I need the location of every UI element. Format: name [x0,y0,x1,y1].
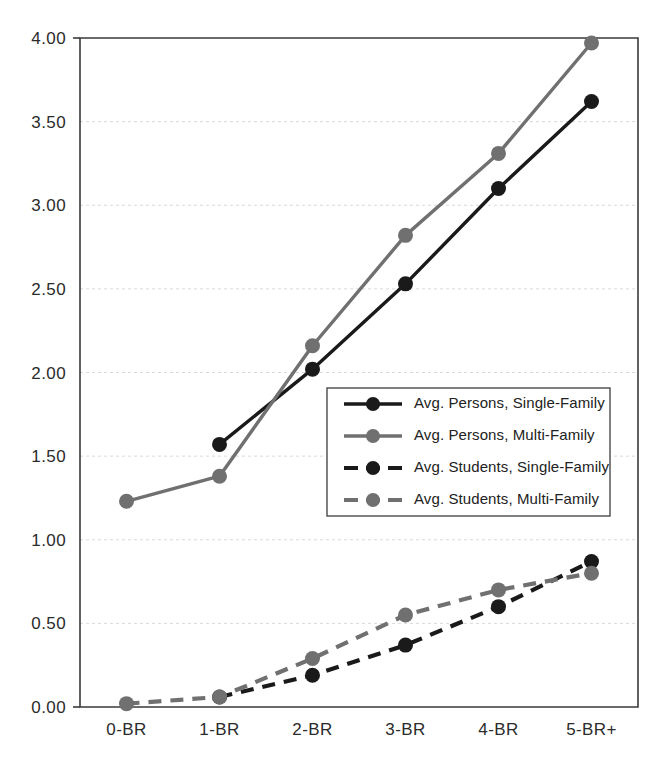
chart-container: 0.000.501.001.502.002.503.003.504.00 0-B… [0,0,670,758]
x-axis-tick-label: 5-BR+ [566,720,617,739]
y-axis-tick-label: 2.00 [31,364,66,383]
y-axis-tick-label: 1.50 [31,447,66,466]
legend-item-label: Avg. Persons, Single-Family [414,394,605,411]
line-chart: 0.000.501.001.502.002.503.003.504.00 0-B… [0,0,670,758]
y-axis-tick-label: 4.00 [31,29,66,48]
x-axis-tick-label: 4-BR [478,720,518,739]
legend-swatch-marker [366,397,380,411]
data-point-marker [119,696,134,711]
data-point-marker [491,146,506,161]
data-point-marker [398,228,413,243]
data-point-marker [398,608,413,623]
y-axis-tick-labels: 0.000.501.001.502.002.503.003.504.00 [31,29,80,717]
legend-item-label: Avg. Students, Multi-Family [414,490,599,507]
legend-swatch-marker [366,493,380,507]
data-point-marker [212,469,227,484]
data-point-marker [119,494,134,509]
data-point-marker [491,181,506,196]
data-point-marker [491,599,506,614]
x-axis-tick-label: 3-BR [385,720,425,739]
data-point-marker [398,638,413,653]
x-axis-tick-label: 1-BR [199,720,239,739]
y-axis-tick-label: 3.50 [31,113,66,132]
legend-item-label: Avg. Students, Single-Family [414,458,610,475]
data-point-marker [491,582,506,597]
data-series-group [119,36,599,712]
y-axis-tick-label: 1.00 [31,531,66,550]
data-point-marker [584,566,599,581]
data-point-marker [305,338,320,353]
series-line-3 [127,573,592,703]
legend-swatch-marker [366,429,380,443]
y-axis-tick-label: 0.50 [31,614,66,633]
chart-legend: Avg. Persons, Single-FamilyAvg. Persons,… [327,388,610,516]
y-axis-tick-label: 3.00 [31,196,66,215]
data-point-marker [212,689,227,704]
data-point-marker [305,362,320,377]
data-point-marker [305,668,320,683]
data-point-marker [212,437,227,452]
x-axis-tick-label: 0-BR [106,720,146,739]
gridlines [80,122,638,624]
data-point-marker [584,94,599,109]
y-axis-tick-label: 0.00 [31,698,66,717]
data-point-marker [305,651,320,666]
legend-swatch-marker [366,461,380,475]
x-axis-tick-label: 2-BR [292,720,332,739]
x-axis-tick-labels: 0-BR1-BR2-BR3-BR4-BR5-BR+ [106,720,617,739]
data-point-marker [398,276,413,291]
legend-item-label: Avg. Persons, Multi-Family [414,426,595,443]
data-point-marker [584,36,599,51]
y-axis-tick-label: 2.50 [31,280,66,299]
